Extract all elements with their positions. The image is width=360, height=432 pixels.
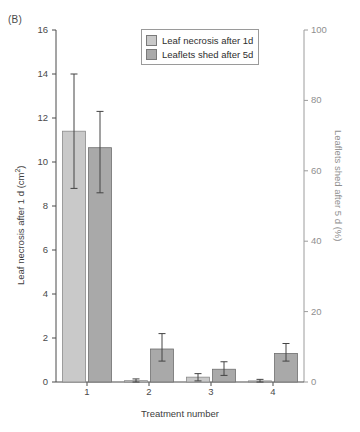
- bar-leaf-necrosis-t4: [249, 379, 272, 382]
- x-tick-3: 3: [199, 386, 223, 397]
- left-tick-10: 10: [22, 156, 48, 167]
- right-tick-100: 100: [311, 24, 341, 35]
- right-tick-40: 40: [311, 235, 341, 246]
- right-axis-title: Leaflets shed after 5 d (%): [333, 130, 344, 241]
- bar-leaflets-shed-t4: [275, 344, 298, 383]
- left-tick-16: 16: [22, 24, 48, 35]
- right-tick-20: 20: [311, 306, 341, 317]
- right-tick-0: 0: [311, 376, 341, 387]
- legend-swatch-leaf-necrosis: [146, 35, 157, 46]
- x-tick-4: 4: [261, 386, 285, 397]
- legend-item-leaf-necrosis: Leaf necrosis after 1d: [146, 33, 253, 47]
- bar-leaflets-shed-t3: [213, 362, 236, 382]
- bar-leaf-necrosis-t3: [187, 374, 210, 382]
- figure-panel-b: (B) Leaf necrosis after 1 d (cm2) Leafle…: [0, 0, 360, 432]
- left-tick-6: 6: [22, 244, 48, 255]
- left-tick-4: 4: [22, 288, 48, 299]
- bar-leaf-necrosis-t1: [63, 74, 86, 382]
- left-tick-2: 2: [22, 332, 48, 343]
- bar-leaf-necrosis-t2: [125, 379, 148, 382]
- left-tick-8: 8: [22, 200, 48, 211]
- x-axis-title: Treatment number: [0, 408, 360, 419]
- x-tick-2: 2: [137, 386, 161, 397]
- right-tick-80: 80: [311, 94, 341, 105]
- left-tick-0: 0: [22, 376, 48, 387]
- legend-item-leaflets-shed: Leaflets shed after 5d: [146, 47, 253, 61]
- legend-label-leaf-necrosis: Leaf necrosis after 1d: [162, 35, 253, 46]
- left-tick-14: 14: [22, 68, 48, 79]
- legend-label-leaflets-shed: Leaflets shed after 5d: [162, 49, 253, 60]
- bar-leaflets-shed-t1: [89, 111, 112, 382]
- left-axis-title: Leaf necrosis after 1 d (cm2): [14, 165, 26, 285]
- right-tick-60: 60: [311, 165, 341, 176]
- left-tick-12: 12: [22, 112, 48, 123]
- legend-swatch-leaflets-shed: [146, 49, 157, 60]
- x-tick-1: 1: [75, 386, 99, 397]
- bar-leaflets-shed-t2: [151, 334, 174, 382]
- chart-legend: Leaf necrosis after 1d Leaflets shed aft…: [141, 29, 259, 65]
- panel-label: (B): [8, 14, 22, 25]
